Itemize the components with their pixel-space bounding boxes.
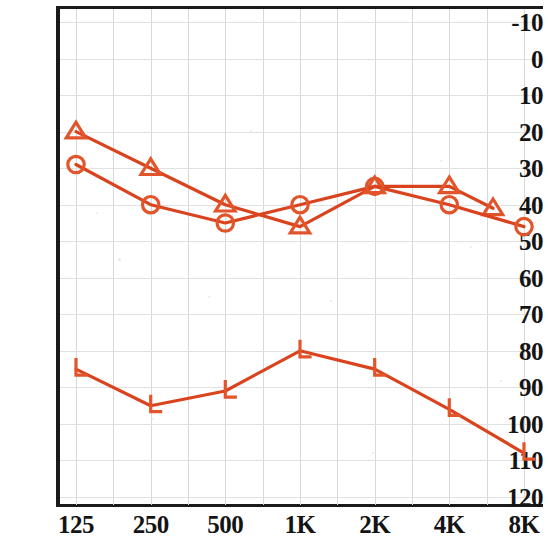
gridline-horizontal (60, 497, 543, 498)
x-tick-label: 125 (41, 512, 111, 537)
texture-fleck (330, 300, 332, 302)
y-tick-label: 110 (491, 448, 543, 473)
gridline-vertical (412, 9, 413, 505)
y-tick-label: 120 (491, 485, 543, 510)
x-tick-label: 2K (340, 512, 410, 537)
y-tick-label: 20 (491, 120, 543, 145)
gridline-horizontal (60, 314, 543, 315)
gridline-horizontal (60, 351, 543, 352)
texture-fleck (118, 258, 121, 261)
gridline-vertical (151, 9, 152, 505)
texture-fleck (470, 246, 472, 248)
gridline-vertical (76, 9, 77, 505)
texture-fleck (440, 160, 442, 162)
y-tick-label: 80 (491, 339, 543, 364)
x-tick-label: 500 (190, 512, 260, 537)
gridline-vertical (487, 9, 488, 505)
gridline-horizontal (60, 278, 543, 279)
y-tick-label: 30 (491, 156, 543, 181)
y-tick-label: 90 (491, 375, 543, 400)
gridline-horizontal (60, 387, 543, 388)
texture-fleck (96, 212, 98, 214)
gridline-horizontal (60, 22, 543, 23)
y-tick-label: 60 (491, 266, 543, 291)
gridline-vertical (337, 9, 338, 505)
y-tick-label: -10 (491, 10, 543, 35)
x-tick-label: 1K (265, 512, 335, 537)
gridline-vertical (225, 9, 226, 505)
gridline-vertical (375, 9, 376, 505)
gridline-vertical (188, 9, 189, 505)
gridline-horizontal (60, 132, 543, 133)
gridline-vertical (263, 9, 264, 505)
x-tick-label: 4K (414, 512, 484, 537)
gridline-horizontal (60, 205, 543, 206)
gridline-horizontal (60, 168, 543, 169)
texture-fleck (152, 418, 154, 420)
x-tick-label: 250 (116, 512, 186, 537)
y-tick-label: 0 (491, 47, 543, 72)
gridline-vertical (113, 9, 114, 505)
y-tick-label: 50 (491, 229, 543, 254)
gridline-horizontal (60, 95, 543, 96)
gridline-horizontal (60, 59, 543, 60)
texture-fleck (372, 452, 374, 454)
gridline-horizontal (60, 424, 543, 425)
y-tick-label: 100 (491, 412, 543, 437)
gridline-horizontal (60, 460, 543, 461)
texture-fleck (208, 296, 210, 298)
gridline-vertical (300, 9, 301, 505)
y-tick-label: 70 (491, 302, 543, 327)
gridline-horizontal (60, 241, 543, 242)
y-tick-label: 40 (491, 193, 543, 218)
x-tick-label: 8K (489, 512, 548, 537)
texture-fleck (250, 130, 252, 132)
gridline-vertical (449, 9, 450, 505)
texture-fleck (500, 380, 502, 382)
y-tick-label: 10 (491, 83, 543, 108)
